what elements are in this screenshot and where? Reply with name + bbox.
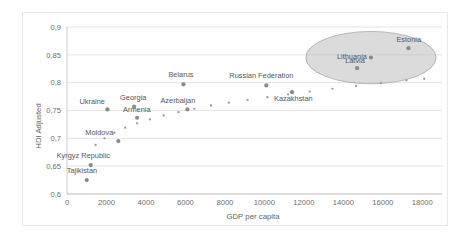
trendline-dot: [136, 122, 138, 124]
data-point-label: Ukraine: [79, 97, 104, 106]
y-tick-label: 0,8: [50, 78, 61, 87]
trendline-dot: [113, 132, 115, 134]
data-point-label: Belarus: [168, 70, 193, 79]
data-point-marker[interactable]: [181, 82, 185, 86]
data-point-marker[interactable]: [355, 66, 359, 70]
x-tick-label: 16000: [372, 198, 393, 207]
y-tick-label: 0,6: [50, 190, 61, 199]
data-point-marker[interactable]: [185, 107, 189, 111]
data-point-label: Georgia: [120, 93, 147, 102]
data-point-label: Moldova: [85, 128, 114, 137]
y-tick-label: 0,75: [46, 106, 61, 115]
data-point-label: Kazakhstan: [274, 94, 313, 103]
data-point-label: Armenia: [123, 105, 151, 114]
data-point-marker[interactable]: [369, 56, 373, 60]
trendline-dot: [246, 99, 248, 101]
trendline-dot: [266, 96, 268, 98]
trendline-dot: [193, 108, 195, 110]
trendline-dot: [228, 102, 230, 104]
data-point-label: Azerbaijan: [160, 96, 195, 105]
x-tick-label: 4000: [137, 198, 154, 207]
x-tick-label: 6000: [177, 198, 194, 207]
data-point-marker[interactable]: [264, 83, 268, 87]
data-point-label: Tajikistan: [67, 166, 97, 175]
data-point-label: Lithuania: [337, 52, 368, 61]
data-point-label: Kyrgyz Republic: [57, 151, 111, 160]
data-point-marker[interactable]: [406, 46, 410, 50]
scatter-chart: 0,60,650,70,750,80,850,9 020004000600080…: [0, 0, 470, 252]
trendline-dot: [103, 137, 105, 139]
data-point-marker[interactable]: [105, 107, 109, 111]
x-tick-label: 18000: [412, 198, 433, 207]
x-axis-tick-labels: 0200040006000800010000120001400016000180…: [65, 198, 433, 207]
trendline-dot: [210, 104, 212, 106]
trendline-dot: [149, 118, 151, 120]
y-tick-label: 0,65: [46, 162, 61, 171]
data-point-marker[interactable]: [85, 178, 89, 182]
y-tick-label: 0,85: [46, 51, 61, 60]
y-axis-title: HDI Adjusted: [34, 103, 43, 149]
trendline-dot: [405, 79, 407, 81]
trendline-dot: [124, 127, 126, 129]
x-tick-label: 12000: [293, 198, 314, 207]
y-tick-label: 0,7: [50, 134, 61, 143]
y-axis-tick-labels: 0,60,650,70,750,80,850,9: [46, 23, 61, 199]
x-tick-label: 14000: [333, 198, 354, 207]
x-tick-label: 0: [65, 198, 69, 207]
x-tick-label: 10000: [254, 198, 275, 207]
x-axis-title: GDP per capita: [226, 212, 280, 221]
x-tick-label: 8000: [216, 198, 233, 207]
trendline-dot: [163, 114, 165, 116]
data-point-label: Estonia: [396, 35, 422, 44]
trendline-dot: [423, 78, 425, 80]
trendline-dot: [94, 144, 96, 146]
trendline-dot: [309, 90, 311, 92]
data-point-marker[interactable]: [89, 163, 93, 167]
trendline-dot: [331, 88, 333, 90]
y-tick-label: 0,9: [50, 23, 61, 32]
data-point-label: Russian Federation: [229, 71, 293, 80]
trendline-dot: [177, 111, 179, 113]
trendline-dot: [380, 82, 382, 84]
data-point-marker[interactable]: [135, 116, 139, 120]
trendline-dot: [355, 85, 357, 87]
data-point-marker[interactable]: [116, 139, 120, 143]
x-tick-label: 2000: [98, 198, 115, 207]
